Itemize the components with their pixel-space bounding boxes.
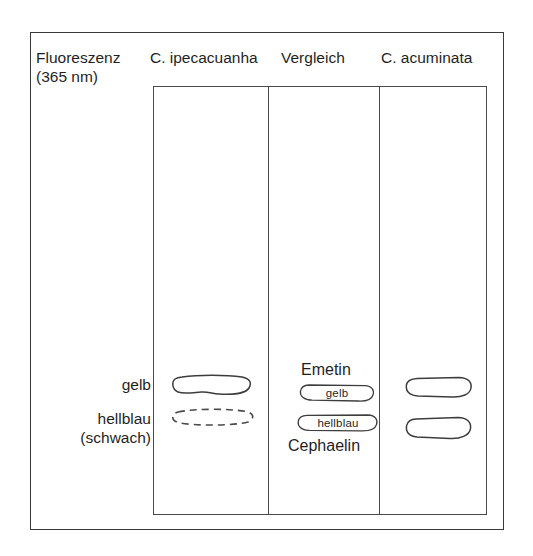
side-label-gelb-text: gelb [122,376,151,393]
band-lane2-gelb-label: gelb [298,383,376,403]
side-label-schwach-text: (schwach) [80,428,151,447]
side-label-hellblau-text: hellblau [98,410,151,427]
header-fluorescence: Fluoreszenz (365 nm) [36,48,120,86]
header-fluorescence-line1: Fluoreszenz [36,49,120,66]
band-lane2-gelb-pill: gelb [298,383,376,403]
band-lane3-hellblau-solid [404,415,474,441]
header-lane-3-label: C. acuminata [381,49,472,66]
band-lane2-hellblau-pill: hellblau [296,413,380,433]
band-lane2-hellblau-label: hellblau [296,413,380,433]
compound-label-cephaelin-text: Cephaelin [288,437,360,454]
side-label-hellblau: hellblau (schwach) [80,409,151,447]
header-fluorescence-line2: (365 nm) [36,67,120,86]
header-lane-2-label: Vergleich [281,49,345,66]
band-lane1-hellblau-dashed [168,406,258,428]
compound-label-cephaelin: Cephaelin [288,436,360,455]
tlc-figure: Fluoreszenz (365 nm) C. ipecacuanha Verg… [0,0,533,556]
compound-label-emetin: Emetin [301,360,351,379]
band-lane3-gelb-solid [404,375,474,400]
lane-divider-2 [379,87,380,514]
band-lane1-gelb-solid [170,374,254,398]
compound-label-emetin-text: Emetin [301,361,351,378]
header-lane-vergleich: Vergleich [281,48,345,67]
header-lane-c-acuminata: C. acuminata [381,48,472,67]
side-label-gelb: gelb [122,375,151,394]
header-lane-1-label: C. ipecacuanha [150,49,258,66]
header-lane-c-ipecacuanha: C. ipecacuanha [150,48,258,67]
lane-divider-1 [268,87,269,514]
